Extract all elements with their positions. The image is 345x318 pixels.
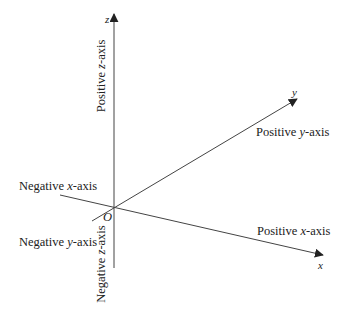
- label-var: z: [94, 64, 108, 69]
- positive-z-axis-label: Positive z-axis: [94, 40, 108, 113]
- label-suffix: -axis: [73, 235, 97, 249]
- axes-canvas: [0, 0, 345, 318]
- positive-x-axis-label: Positive x-axis: [257, 224, 330, 238]
- z-axis-letter: z: [105, 13, 109, 25]
- label-prefix: Positive: [256, 125, 299, 139]
- label-suffix: -axis: [73, 179, 97, 193]
- negative-y-axis-label: Negative y-axis: [19, 235, 97, 249]
- y-axis-line: [92, 99, 297, 221]
- y-axis-letter: y: [292, 86, 297, 98]
- label-suffix: -axis: [305, 125, 329, 139]
- origin-label: O: [103, 210, 112, 224]
- label-prefix: Negative: [19, 235, 67, 249]
- coordinate-axes-diagram: z y x O Positive z-axis Negative z-axis …: [0, 0, 345, 318]
- positive-y-axis-label: Positive y-axis: [256, 125, 329, 139]
- label-suffix: -axis: [306, 224, 330, 238]
- label-prefix: Positive: [94, 69, 108, 112]
- x-axis-letter: x: [318, 259, 323, 271]
- label-suffix: -axis: [94, 40, 108, 64]
- label-prefix: Negative: [19, 179, 67, 193]
- label-var: z: [94, 250, 108, 255]
- label-prefix: Negative: [94, 254, 108, 302]
- negative-x-axis-label: Negative x-axis: [19, 179, 97, 193]
- label-prefix: Positive: [257, 224, 300, 238]
